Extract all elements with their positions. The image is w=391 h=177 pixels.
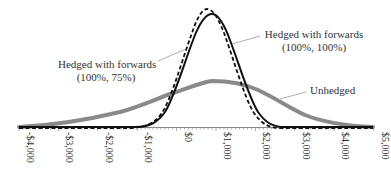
leader-line-unhedged (280, 92, 306, 99)
x-tick-label: $0 (183, 132, 194, 142)
x-tick-label: $5,000 (380, 132, 391, 160)
x-tick-label: $3,000 (301, 132, 312, 160)
x-tick-label: $2,000 (261, 132, 272, 160)
leader-line-left (158, 49, 186, 61)
annotation-line2: (100%, 100%) (262, 41, 366, 54)
annotation-line1: Hedged with forwards (58, 58, 154, 71)
annotation-line2: (100%, 75%) (58, 71, 154, 84)
leader-line-right (232, 36, 260, 44)
annotation-line1: Hedged with forwards (262, 28, 366, 41)
annotation-hedged-100-75: Hedged with forwards (100%, 75%) (58, 58, 154, 84)
x-tick-label: -$1,000 (143, 132, 154, 163)
x-tick-label: -$4,000 (25, 132, 36, 163)
x-tick-label: -$3,000 (64, 132, 75, 163)
annotation-hedged-100-100: Hedged with forwards (100%, 100%) (262, 28, 366, 54)
x-tick-label: -$2,000 (104, 132, 115, 163)
x-tick-label: $4,000 (340, 132, 351, 160)
annotation-unhedged: Unhedged (310, 84, 355, 97)
x-tick-label: $1,000 (222, 132, 233, 160)
